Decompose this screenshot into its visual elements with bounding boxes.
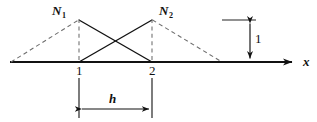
- figure-canvas: [0, 0, 317, 122]
- label-shape-function-n1: N1: [52, 4, 65, 17]
- label-shape-function-n2: N2: [159, 4, 172, 17]
- label-node-1: 1: [76, 64, 83, 77]
- label-axis-x: x: [303, 55, 310, 68]
- n1-dashed-limb: [11, 20, 79, 62]
- label-element-length-h: h: [109, 92, 116, 105]
- label-node-2: 2: [149, 64, 156, 77]
- label-unit-height: 1: [255, 32, 262, 45]
- n2-dashed-limb: [153, 20, 223, 62]
- shape-function-figure: N1 N2 1 2 1 h x: [0, 0, 317, 122]
